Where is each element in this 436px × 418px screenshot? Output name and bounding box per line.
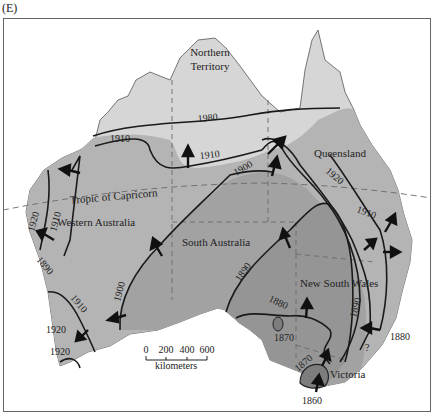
label-northern-territory-2: Territory [191,60,230,72]
label-victoria: Victoria [330,368,365,380]
zone-1870-a [273,317,283,331]
year-label: 1980 [197,111,218,124]
australia-map: Northern Territory Queensland Western Au… [0,0,436,418]
label-queensland: Queensland [314,147,366,159]
scale-tick-400: 400 [180,344,195,355]
label-new-south-wales: New South Wales [300,277,378,289]
year-label: 1910 [110,133,130,144]
label-south-australia: South Australia [182,236,250,248]
label-western-australia: Western Australia [57,216,135,228]
question-mark: ? [365,342,370,353]
year-label: 1870 [274,332,294,343]
scale-tick-0: 0 [144,344,149,355]
year-label: 1920 [46,324,66,335]
year-label: 1860 [302,395,322,406]
scale-bar: 0 200 400 600 kilometers [144,344,215,371]
scale-tick-600: 600 [200,344,215,355]
scale-unit: kilometers [155,360,197,371]
label-northern-territory-1: Northern [190,46,230,58]
year-label: 1880 [390,331,410,342]
scale-tick-200: 200 [159,344,174,355]
year-label: 1910 [199,148,220,161]
year-label: 1920 [50,346,70,357]
